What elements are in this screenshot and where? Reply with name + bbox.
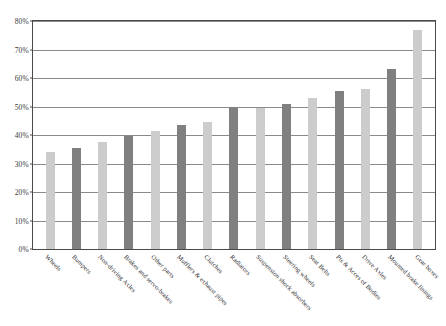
bar-slot: [116, 21, 142, 249]
bar-slot: [63, 21, 89, 249]
x-axis-labels: WheelsBumpersNon-driving AxlesBrakes and…: [32, 251, 436, 326]
x-label-slot: Radiators: [221, 251, 247, 326]
bar-slot: [221, 21, 247, 249]
y-tick-label: 30%: [15, 159, 29, 168]
x-label-slot: Drive Axles: [353, 251, 379, 326]
y-tick-label: 70%: [15, 45, 29, 54]
x-label-slot: Seat Belts: [300, 251, 326, 326]
x-label-slot: Non-driving Axles: [89, 251, 115, 326]
plot-area: 80%70%60%50%40%30%20%10%0%: [32, 20, 436, 250]
x-axis-label: Gear boxes: [414, 253, 440, 279]
bar[interactable]: [72, 148, 81, 249]
x-label-slot: Brakes and servo-brakes: [115, 251, 141, 326]
y-tick-label: 60%: [15, 74, 29, 83]
bar-slot: [352, 21, 378, 249]
bar[interactable]: [308, 98, 317, 249]
x-axis-label: Wheels: [44, 253, 63, 272]
x-label-slot: Mufflers & exhaust pipes: [168, 251, 194, 326]
x-label-slot: Wheels: [36, 251, 62, 326]
x-label-slot: Steering wheels: [274, 251, 300, 326]
x-label-slot: Gear boxes: [406, 251, 432, 326]
bar-slot: [37, 21, 63, 249]
bar-slot: [168, 21, 194, 249]
y-tick-label: 40%: [15, 131, 29, 140]
bar[interactable]: [282, 104, 291, 249]
y-tick-label: 50%: [15, 102, 29, 111]
x-label-slot: Bumpers: [62, 251, 88, 326]
bar[interactable]: [46, 152, 55, 249]
bar-slot: [326, 21, 352, 249]
bar[interactable]: [98, 142, 107, 249]
y-tick-label: 0%: [19, 245, 29, 254]
x-label-slot: Other parts: [142, 251, 168, 326]
bar-slot: [405, 21, 431, 249]
bar[interactable]: [203, 122, 212, 249]
bar-slot: [273, 21, 299, 249]
bar[interactable]: [361, 89, 370, 249]
bar-slot: [195, 21, 221, 249]
x-label-slot: Suspension shock absorbers: [247, 251, 273, 326]
bar[interactable]: [387, 69, 396, 249]
bar[interactable]: [413, 30, 422, 249]
y-tick-label: 20%: [15, 188, 29, 197]
bar[interactable]: [151, 131, 160, 249]
bar[interactable]: [229, 107, 238, 250]
bar[interactable]: [256, 108, 265, 249]
bar-slot: [90, 21, 116, 249]
x-label-slot: Mounted brake linings: [379, 251, 405, 326]
bar-series: [33, 21, 435, 249]
y-tick-label: 80%: [15, 17, 29, 26]
bar[interactable]: [124, 136, 133, 249]
bar-slot: [378, 21, 404, 249]
bar-slot: [300, 21, 326, 249]
x-label-slot: Pts & Acces of Bodies: [326, 251, 352, 326]
bar-slot: [247, 21, 273, 249]
bar[interactable]: [177, 125, 186, 249]
bar-chart: 80%70%60%50%40%30%20%10%0% WheelsBumpers…: [0, 0, 446, 326]
bar-slot: [142, 21, 168, 249]
y-tick-label: 10%: [15, 216, 29, 225]
x-label-slot: Clutches: [194, 251, 220, 326]
bar[interactable]: [335, 91, 344, 249]
